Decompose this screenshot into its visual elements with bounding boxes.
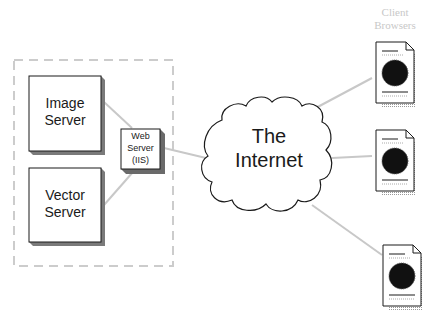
- vector-server-node[interactable]: [29, 168, 105, 246]
- client-browsers-label: Client Browsers: [355, 6, 435, 32]
- document-with-globe-icon: [383, 245, 423, 311]
- cloud-icon[interactable]: [202, 97, 332, 211]
- client-browser-1[interactable]: [376, 42, 416, 108]
- architecture-diagram: [0, 0, 437, 316]
- connector-internet-to-client-1: [312, 78, 372, 110]
- client-browsers-label-line2: Browsers: [355, 19, 435, 32]
- connector-internet-to-client-3: [312, 205, 382, 255]
- web-server-node[interactable]: [121, 129, 165, 174]
- connector-image-to-web: [104, 102, 132, 128]
- client-browsers-label-line1: Client: [355, 6, 435, 19]
- document-with-globe-icon: [376, 42, 416, 108]
- connector-web-to-internet: [164, 148, 206, 158]
- connector-vector-to-web: [104, 172, 133, 205]
- image-server-node[interactable]: [29, 76, 105, 155]
- document-with-globe-icon: [376, 130, 416, 196]
- client-browser-3[interactable]: [383, 245, 423, 311]
- client-browser-2[interactable]: [376, 130, 416, 196]
- connector-internet-to-client-2: [332, 156, 372, 158]
